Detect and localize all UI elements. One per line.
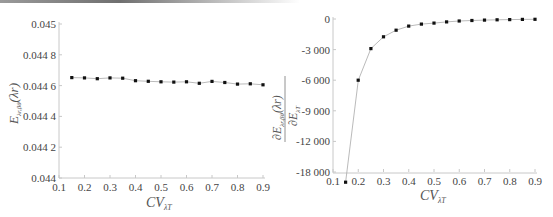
left-y-axis-title: Eλr,βθ(λr): [6, 83, 23, 125]
x-tick-label: 0.6: [180, 181, 194, 193]
x-tick-label: 0.4: [402, 175, 416, 187]
data-point: [344, 181, 347, 184]
data-point: [382, 35, 385, 38]
data-point: [458, 19, 461, 22]
left-series-line: [72, 78, 263, 85]
data-point: [432, 22, 435, 25]
y-tick-label: -9 000: [302, 105, 331, 117]
right-x-ticks: 0.10.20.30.40.50.60.70.80.9: [326, 169, 542, 187]
left-x-ticks: 0.10.20.30.40.50.60.70.80.9: [52, 175, 270, 193]
data-point: [223, 81, 226, 84]
x-tick-label: 0.9: [528, 175, 542, 187]
right-y-axis-denominator: ∂EλT: [286, 105, 302, 126]
x-tick-label: 0.9: [256, 181, 270, 193]
x-tick-label: 0.4: [129, 181, 143, 193]
data-point: [445, 20, 448, 23]
x-tick-label: 0.7: [205, 181, 219, 193]
x-tick-label: 0.2: [351, 175, 365, 187]
data-point: [521, 18, 524, 21]
y-tick-label: -12 000: [296, 135, 330, 147]
data-point: [496, 18, 499, 21]
data-point: [108, 76, 111, 79]
right-series-markers: [344, 18, 537, 184]
x-tick-label: 0.3: [377, 175, 391, 187]
data-point: [420, 23, 423, 26]
data-point: [185, 80, 188, 83]
y-tick-label: 0.044 8: [23, 49, 57, 61]
figure-canvas: 0.0450.044 80.044 60.044 40.044 20.044 0…: [0, 0, 553, 217]
x-tick-label: 0.3: [103, 181, 117, 193]
y-tick-label: 0.044 2: [23, 141, 56, 153]
y-tick-label: 0.044 4: [23, 110, 57, 122]
right-y-axis-numerator: ∂Eλr,βθ(λr): [270, 95, 286, 140]
right-series-line: [346, 19, 535, 182]
x-tick-label: 0.6: [452, 175, 466, 187]
left-chart: 0.0450.044 80.044 60.044 40.044 20.044 0…: [6, 18, 270, 212]
y-tick-label: -6 000: [302, 74, 331, 86]
data-point: [369, 47, 372, 50]
data-point: [508, 18, 511, 21]
x-tick-label: 0.5: [427, 175, 441, 187]
right-chart: 0-3 000-6 000-9 000-12 000-18 000 0.10.2…: [270, 13, 542, 205]
x-tick-label: 0.8: [503, 175, 517, 187]
data-point: [470, 19, 473, 22]
data-point: [236, 83, 239, 86]
x-tick-label: 0.1: [52, 181, 66, 193]
data-point: [357, 79, 360, 82]
x-tick-label: 0.8: [231, 181, 245, 193]
data-point: [70, 76, 73, 79]
data-point: [159, 80, 162, 83]
data-point: [483, 19, 486, 22]
data-point: [134, 79, 137, 82]
x-tick-label: 0.7: [478, 175, 492, 187]
x-tick-label: 0.2: [78, 181, 92, 193]
right-y-axis-title: ∂Eλr,βθ(λr) ∂EλT: [270, 76, 302, 142]
left-y-ticks: 0.0450.044 80.044 60.044 40.044 20.044: [23, 18, 62, 184]
data-point: [198, 82, 201, 85]
data-point: [407, 25, 410, 28]
data-point: [121, 77, 124, 80]
y-tick-label: 0.044 6: [23, 80, 57, 92]
right-x-axis-title: CVλT: [420, 188, 446, 205]
y-tick-label: 0.045: [31, 18, 56, 30]
data-point: [172, 81, 175, 84]
data-point: [96, 77, 99, 80]
data-point: [395, 29, 398, 32]
data-point: [261, 83, 264, 86]
left-series-markers: [70, 76, 264, 86]
data-point: [147, 80, 150, 83]
data-point: [249, 82, 252, 85]
data-point: [210, 80, 213, 83]
data-point: [83, 76, 86, 79]
right-y-ticks: 0-3 000-6 000-9 000-12 000-18 000: [296, 13, 336, 178]
x-tick-label: 0.5: [154, 181, 168, 193]
x-tick-label: 0.1: [326, 175, 340, 187]
y-tick-label: -3 000: [302, 44, 331, 56]
data-point: [533, 18, 536, 21]
left-x-axis-title: CVλT: [146, 195, 172, 212]
y-tick-label: 0: [325, 13, 331, 25]
